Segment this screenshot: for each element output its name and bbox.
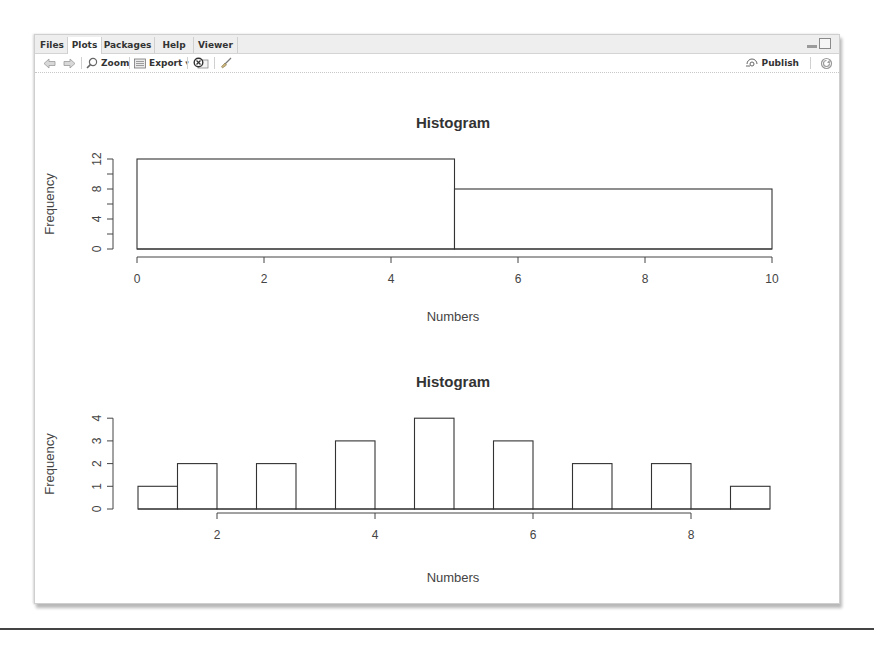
pane-tab-bar: Files Plots Packages Help Viewer [35,35,839,54]
x-tick-label: 6 [530,528,537,542]
toolbar-separator [187,57,188,69]
x-axis: 2468 [214,513,695,542]
remove-plot-button[interactable] [193,56,209,70]
y-tick-label: 12 [90,152,104,166]
histogram-bar [137,159,455,249]
maximize-icon[interactable] [819,38,831,49]
publish-label: Publish [762,56,799,70]
histogram-bar [138,486,178,509]
x-tick-label: 4 [372,528,379,542]
magnifier-icon [86,57,98,69]
tab-help[interactable]: Help [155,37,194,53]
y-tick-label: 3 [90,437,104,444]
remove-plot-icon [193,57,209,69]
tab-packages[interactable]: Packages [101,37,155,53]
toolbar-separator [810,57,811,69]
chart-title: Histogram [416,114,490,131]
clipped-caption-text [20,640,500,647]
histogram-bar [257,464,297,509]
plots-toolbar: Zoom Export ▾ [35,54,839,73]
y-tick-label: 1 [90,483,104,490]
y-tick-label: 4 [90,215,104,222]
refresh-icon [820,57,833,70]
histogram-bar [415,418,455,509]
histogram-bar [731,486,771,509]
publish-icon [745,58,759,69]
x-tick-label: 8 [688,528,695,542]
histogram-bar [178,464,218,509]
histogram-plots: Histogram Frequency Numbers 04812 024681… [35,73,839,603]
tab-viewer[interactable]: Viewer [194,37,238,53]
chart-title: Histogram [416,373,490,390]
histogram-bar [573,464,613,509]
arrow-right-icon [63,58,76,69]
x-tick-label: 10 [765,272,779,286]
back-button[interactable] [43,56,56,70]
x-tick-label: 6 [515,272,522,286]
x-tick-label: 2 [214,528,221,542]
histogram-bar [336,441,376,509]
histogram-bar [652,464,692,509]
histogram-bottom: Histogram Frequency Numbers 01234 2468 [42,373,770,585]
tab-files[interactable]: Files [37,37,68,53]
clear-all-plots-button[interactable] [220,56,232,70]
x-tick-label: 2 [261,272,268,286]
y-axis-label: Frequency [42,173,57,235]
x-axis-label: Numbers [427,309,480,324]
broom-icon [220,57,232,69]
histogram-bar [494,441,534,509]
plots-pane: Files Plots Packages Help Viewer Zoom [34,34,840,604]
minimize-icon[interactable] [807,45,817,48]
export-button[interactable]: Export ▾ [134,56,189,70]
x-tick-label: 0 [134,272,141,286]
y-tick-label: 2 [90,460,104,467]
y-axis-label: Frequency [42,433,57,495]
zoom-button[interactable]: Zoom [86,56,129,70]
y-axis: 01234 [90,415,113,513]
zoom-label: Zoom [101,56,129,70]
arrow-left-icon [43,58,56,69]
histogram-bars [137,159,772,249]
x-tick-label: 8 [642,272,649,286]
refresh-button[interactable] [820,56,833,70]
histogram-top: Histogram Frequency Numbers 04812 024681… [42,114,779,324]
x-axis: 0246810 [134,257,779,286]
histogram-bar [455,189,773,249]
tab-plots[interactable]: Plots [67,37,102,54]
window-controls [805,38,831,50]
toolbar-separator [214,57,215,69]
x-tick-label: 4 [388,272,395,286]
y-tick-label: 0 [90,505,104,512]
y-axis: 04812 [90,152,113,252]
toolbar-separator [129,57,130,69]
publish-button[interactable]: Publish [745,56,799,70]
toolbar-separator [81,57,82,69]
export-image-icon [134,58,146,69]
y-tick-label: 8 [90,185,104,192]
forward-button[interactable] [63,56,76,70]
x-axis-label: Numbers [427,570,480,585]
plot-viewer: Histogram Frequency Numbers 04812 024681… [35,73,839,603]
y-tick-label: 0 [90,245,104,252]
page-divider [0,628,874,630]
y-tick-label: 4 [90,415,104,422]
histogram-bars [138,418,770,509]
export-label: Export [149,56,182,70]
